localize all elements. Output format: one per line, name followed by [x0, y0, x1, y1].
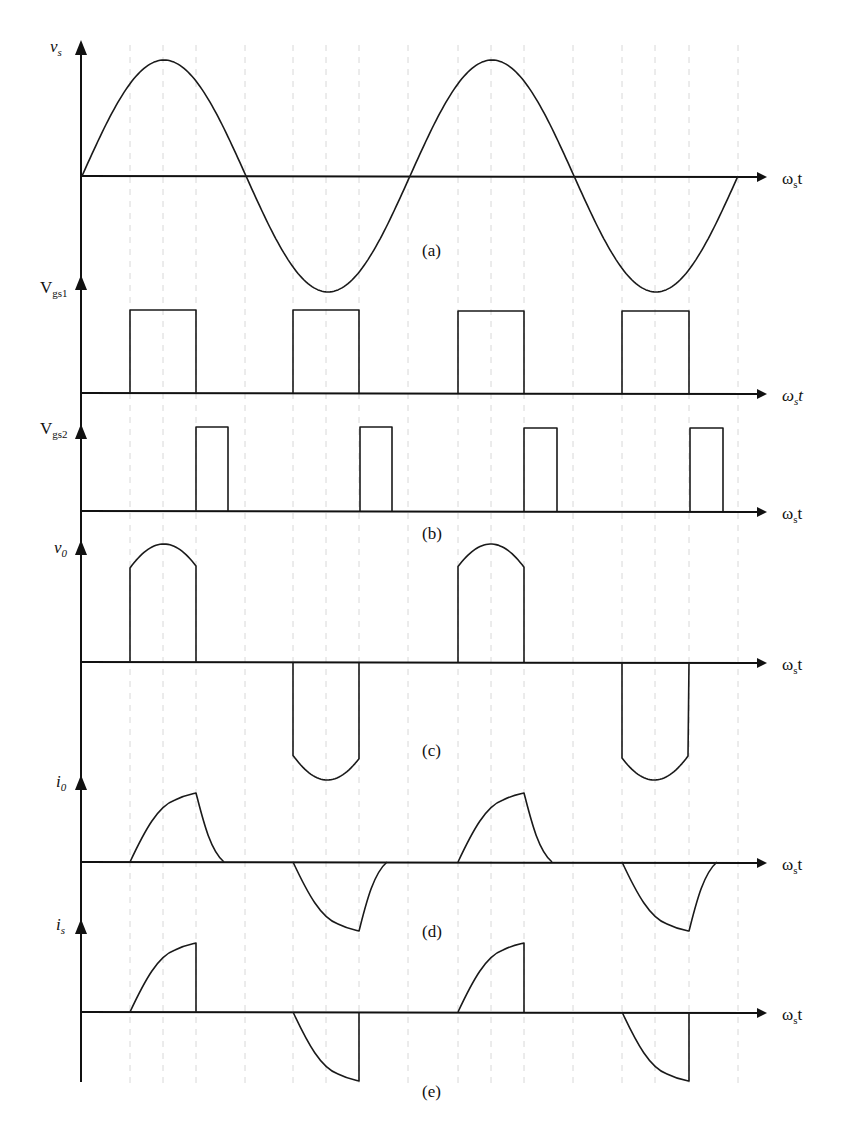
- y-label-vgs1: Vgs1: [40, 278, 68, 299]
- y-label-vgs2: Vgs2: [40, 419, 68, 440]
- caption-e: (e): [422, 1082, 441, 1101]
- svg-text:ωst: ωst: [782, 1005, 802, 1026]
- svg-text:ωst: ωst: [782, 386, 804, 407]
- svg-text:ωst: ωst: [782, 504, 802, 525]
- caption-d: (d): [422, 922, 442, 941]
- arrow-up-icon-vgs2: [75, 424, 87, 439]
- vgs2-pulses: [196, 427, 723, 511]
- arrow-up-icon-vs: [75, 40, 87, 55]
- caption-c: (c): [422, 741, 441, 760]
- caption-b: (b): [422, 524, 442, 543]
- x-axis-labels: ωst ωst ωst ωst ωst ωst: [782, 169, 804, 1026]
- y-label-is: is: [56, 915, 65, 936]
- caption-a: (a): [422, 241, 441, 260]
- y-label-vs: vs: [50, 37, 62, 58]
- vgs1-pulses: [130, 310, 689, 393]
- svg-text:ωst: ωst: [782, 655, 802, 676]
- arrow-up-icon-i0: [75, 775, 87, 790]
- arrow-up-icon-v0: [75, 540, 87, 555]
- waveform-diagram: vs Vgs1 Vgs2 v0 i0 is ωst ωst ωst ωst ωs…: [0, 0, 853, 1129]
- y-label-v0: v0: [54, 538, 68, 559]
- svg-text:ωst: ωst: [782, 169, 802, 190]
- arrow-up-icon-vgs1: [75, 275, 87, 290]
- y-label-i0: i0: [56, 772, 67, 793]
- svg-text:ωst: ωst: [782, 855, 802, 876]
- arrow-up-icon-is: [75, 919, 87, 934]
- x-axes: [81, 176, 762, 1013]
